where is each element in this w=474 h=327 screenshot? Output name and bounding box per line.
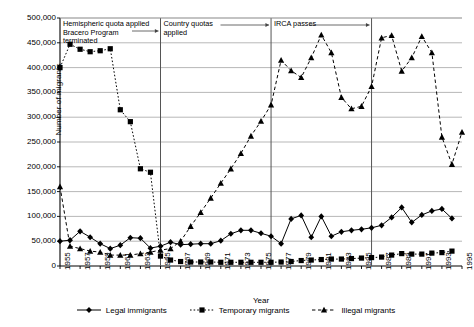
data-point-triangle: [57, 183, 63, 189]
data-point-triangle: [358, 103, 364, 109]
data-point-square: [88, 49, 93, 54]
data-point-diamond: [318, 213, 324, 219]
x-tick-label: 1987: [385, 252, 393, 270]
data-point-diamond: [298, 212, 304, 218]
data-point-square: [199, 307, 204, 312]
data-point-triangle: [167, 245, 173, 251]
data-point-diamond: [258, 230, 264, 236]
data-point-diamond: [419, 212, 425, 218]
legend-item[interactable]: Illegal migrants: [311, 305, 395, 315]
data-point-diamond: [429, 208, 435, 214]
data-point-diamond: [369, 225, 375, 231]
data-point-triangle: [449, 161, 455, 167]
data-point-diamond: [87, 234, 93, 240]
data-point-diamond: [359, 226, 365, 232]
x-tick-label: 1985: [365, 252, 373, 270]
x-tick-label: 1995: [466, 252, 474, 270]
x-tick-label: 1969: [204, 252, 212, 270]
x-tick-label: 1975: [265, 252, 273, 270]
y-tick-label: 500,000: [0, 14, 56, 22]
x-tick-label: 1993: [445, 252, 453, 270]
annotation-arrow-head: [366, 23, 370, 27]
data-point-triangle: [429, 50, 435, 56]
data-point-square: [138, 166, 143, 171]
x-tick-label: 1989: [405, 252, 413, 270]
x-tick-label: 1959: [104, 252, 112, 270]
annotation-arrow-head: [265, 23, 269, 27]
data-point-triangle: [338, 94, 344, 100]
series-line: [60, 44, 452, 262]
series-illegal-migrants: [57, 32, 465, 258]
x-tick-label: 1963: [144, 252, 152, 270]
x-tick-label: 1977: [285, 252, 293, 270]
data-point-triangle: [268, 102, 274, 108]
series-line: [60, 208, 452, 249]
data-point-diamond: [228, 231, 234, 237]
data-point-triangle: [248, 133, 254, 139]
data-point-square: [128, 119, 133, 124]
y-tick-label: 250,000: [0, 138, 56, 146]
data-point-diamond: [86, 307, 92, 313]
x-tick-label: 1973: [244, 252, 252, 270]
data-point-triangle: [328, 50, 334, 56]
data-point-diamond: [248, 227, 254, 233]
annotation-arrow-head: [155, 29, 159, 33]
data-point-triangle: [368, 83, 374, 89]
data-point-diamond: [57, 238, 63, 244]
ann-country: Country quotas applied: [164, 20, 214, 37]
legend-marker-diamond: [76, 305, 102, 315]
legend-label: Temporary migrants: [219, 306, 290, 315]
chart-legend: Legal immigrantsTemporary migrantsIllega…: [0, 305, 471, 315]
x-tick-label: 1967: [184, 252, 192, 270]
y-tick-label: 300,000: [0, 113, 56, 121]
data-point-square: [118, 107, 123, 112]
data-point-diamond: [339, 229, 345, 235]
legend-marker-triangle: [311, 305, 337, 315]
data-point-diamond: [308, 234, 314, 240]
x-tick-label: 1957: [84, 252, 92, 270]
data-point-diamond: [238, 227, 244, 233]
legend-item[interactable]: Legal immigrants: [76, 305, 167, 315]
data-point-diamond: [328, 233, 334, 239]
x-tick-label: 1983: [345, 252, 353, 270]
y-tick-label: 50,000: [0, 237, 56, 245]
series-legal-immigrants: [57, 204, 455, 251]
data-point-diamond: [218, 238, 224, 244]
y-tick-label: 400,000: [0, 64, 56, 72]
legend-item[interactable]: Temporary migrants: [189, 305, 290, 315]
data-point-square: [148, 170, 153, 175]
y-tick-label: 150,000: [0, 188, 56, 196]
data-point-triangle: [238, 150, 244, 156]
data-point-diamond: [127, 235, 133, 241]
legend-label: Legal immigrants: [106, 306, 167, 315]
y-tick-label: 100,000: [0, 212, 56, 220]
data-point-triangle: [288, 67, 294, 73]
data-point-diamond: [349, 227, 355, 233]
data-point-triangle: [308, 54, 314, 60]
y-tick-label: 200,000: [0, 163, 56, 171]
ann-irca: IRCA passes: [274, 20, 316, 29]
legend-marker-square: [189, 305, 215, 315]
data-point-triangle: [67, 243, 73, 249]
y-tick-label: 450,000: [0, 39, 56, 47]
x-tick-label: 1955: [64, 252, 72, 270]
x-tick-label: 1971: [224, 252, 232, 270]
data-point-diamond: [168, 239, 174, 245]
data-point-triangle: [419, 33, 425, 39]
data-point-triangle: [439, 134, 445, 140]
x-tick-label: 1981: [325, 252, 333, 270]
x-tick-label: 1979: [305, 252, 313, 270]
ann-hemispheric: Hemispheric quota applied Bracero Progra…: [63, 20, 149, 46]
x-tick-label: 1961: [124, 252, 132, 270]
y-tick-label: 350,000: [0, 88, 56, 96]
data-point-triangle: [258, 118, 264, 124]
data-point-triangle: [459, 129, 465, 135]
data-point-triangle: [298, 74, 304, 80]
data-point-square: [108, 46, 113, 51]
x-tick-label: 1991: [425, 252, 433, 270]
data-point-triangle: [278, 57, 284, 63]
data-point-square: [98, 48, 103, 53]
data-point-square: [279, 259, 284, 264]
